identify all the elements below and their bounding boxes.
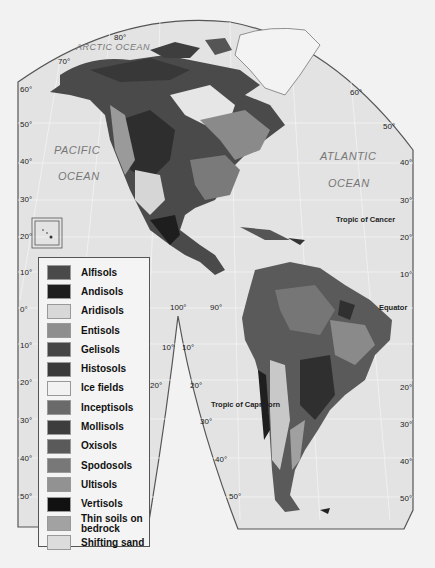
atlantic-ocean-label: ATLANTIC [320,150,376,162]
lat-label: 20° [150,381,162,390]
legend-item-alfisols: Alfisols [47,263,149,282]
lat-label: 40° [20,454,32,463]
legend-label: Aridisols [81,306,124,316]
pacific-ocean-label: PACIFIC [54,144,100,156]
lat-label: 40° [20,157,32,166]
swatch [47,342,71,357]
soil-legend: Alfisols Andisols Aridisols Entisols Gel… [38,257,150,547]
tropic-of-capricorn-label: Tropic of Capricorn [211,400,280,409]
legend-label: Oxisols [81,441,117,451]
swatch [47,362,71,377]
lat-label: 20° [400,383,412,392]
tropic-of-cancer-label: Tropic of Cancer [336,215,395,224]
lat-label: 60° [20,85,32,94]
lon-label: 80° [114,33,126,42]
legend-label: Ice fields [81,383,124,393]
lon-label: 90° [210,303,222,312]
swatch [47,439,71,454]
legend-label: Mollisols [81,422,124,432]
lon-label: 100° [170,303,187,312]
lat-label: 0° [20,305,28,314]
lat-label: 30° [400,420,412,429]
swatch [47,304,71,319]
legend-item-aridisols: Aridisols [47,302,149,321]
atlantic-ocean-label-2: OCEAN [328,177,370,189]
legend-item-oxisols: Oxisols [47,437,149,456]
lat-label: 60° [350,88,362,97]
equator-label: Equator [379,303,407,312]
legend-label: Thin soils on bedrock [81,514,149,534]
legend-item-ice-fields: Ice fields [47,379,149,398]
swatch [47,265,71,280]
swatch [47,477,71,492]
lat-label: 50° [229,492,241,501]
legend-item-spodosols: Spodosols [47,456,149,475]
lat-label: 40° [400,158,412,167]
legend-item-mollisols: Mollisols [47,417,149,436]
legend-item-andisols: Andisols [47,282,149,301]
lat-label: 20° [20,232,32,241]
legend-item-thin-soils: Thin soils on bedrock [47,514,149,533]
lat-label: 20° [20,378,32,387]
legend-label: Shifting sand [81,538,144,548]
legend-item-entisols: Entisols [47,321,149,340]
swatch [47,400,71,415]
swatch [47,284,71,299]
arctic-ocean-label: ARCTIC OCEAN [76,42,150,52]
lat-label: 40° [215,455,227,464]
legend-label: Histosols [81,364,126,374]
lat-label: 50° [20,492,32,501]
lat-label: 50° [400,494,412,503]
swatch [47,516,71,531]
legend-item-vertisols: Vertisols [47,495,149,514]
swatch [47,420,71,435]
pacific-ocean-label-2: OCEAN [58,170,100,182]
lat-label: 20° [190,381,202,390]
swatch [47,535,71,550]
legend-item-ultisols: Ultisols [47,475,149,494]
legend-label: Andisols [81,287,123,297]
lat-label: 10° [20,268,32,277]
lat-label: 10° [182,343,194,352]
lat-label: 30° [20,195,32,204]
lat-label: 50° [20,120,32,129]
lat-label: 30° [400,196,412,205]
legend-label: Ultisols [81,480,117,490]
legend-label: Inceptisols [81,403,133,413]
lat-label: 30° [20,416,32,425]
legend-label: Alfisols [81,268,117,278]
lat-label: 10° [400,270,412,279]
lat-label: 20° [400,233,412,242]
legend-item-shifting-sand: Shifting sand [47,533,149,552]
lat-label: 50° [383,122,395,131]
legend-item-histosols: Histosols [47,359,149,378]
legend-label: Spodosols [81,461,132,471]
legend-label: Entisols [81,326,120,336]
legend-label: Vertisols [81,499,123,509]
legend-item-inceptisols: Inceptisols [47,398,149,417]
swatch [47,323,71,338]
lat-label: 40° [400,457,412,466]
legend-item-gelisols: Gelisols [47,340,149,359]
swatch [47,497,71,512]
lat-label: 10° [20,341,32,350]
lon-label: 70° [58,57,70,66]
lat-label: 10° [162,343,174,352]
lat-label: 30° [200,417,212,426]
swatch [47,458,71,473]
swatch [47,381,71,396]
legend-label: Gelisols [81,345,120,355]
